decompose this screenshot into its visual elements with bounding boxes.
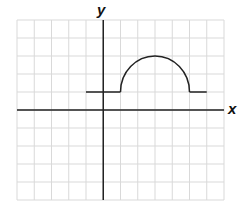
y-axis-label: y: [97, 1, 105, 18]
function-graph: [0, 0, 248, 212]
x-axis-label: x: [228, 100, 236, 117]
